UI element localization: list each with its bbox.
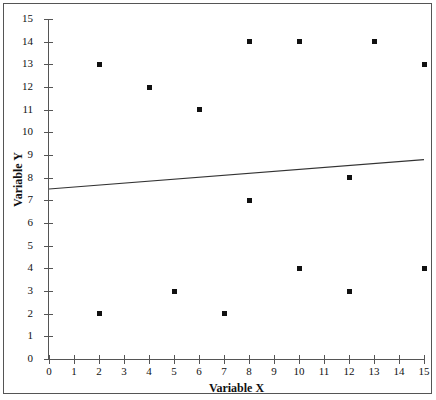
y-axis-label: Variable Y — [11, 130, 26, 230]
x-axis-line — [49, 359, 425, 360]
x-tick-label: 14 — [388, 366, 410, 377]
x-tick — [424, 355, 425, 364]
y-tick-label: 0 — [11, 353, 33, 364]
y-tick-label: 12 — [11, 81, 33, 92]
y-tick-label: 2 — [11, 308, 33, 319]
scatter-point — [297, 266, 302, 271]
x-tick-label: 11 — [313, 366, 335, 377]
x-tick-label: 6 — [188, 366, 210, 377]
scatter-point — [297, 39, 302, 44]
y-tick-label: 11 — [11, 104, 33, 115]
scatter-point — [172, 289, 177, 294]
scatter-point — [347, 289, 352, 294]
x-tick-label: 15 — [413, 366, 435, 377]
x-tick-label: 1 — [63, 366, 85, 377]
trend-line — [49, 19, 424, 359]
scatter-point — [422, 62, 427, 67]
x-tick-label: 10 — [288, 366, 310, 377]
y-tick-label: 14 — [11, 36, 33, 47]
scatter-point — [247, 198, 252, 203]
x-tick-label: 0 — [38, 366, 60, 377]
x-tick-label: 13 — [363, 366, 385, 377]
x-tick-label: 3 — [113, 366, 135, 377]
x-tick-label: 9 — [263, 366, 285, 377]
plot-area — [49, 19, 424, 359]
scatter-point — [222, 311, 227, 316]
scatter-point — [422, 266, 427, 271]
y-tick-label: 15 — [11, 13, 33, 24]
x-tick-label: 12 — [338, 366, 360, 377]
scatter-point — [197, 107, 202, 112]
x-tick-label: 2 — [88, 366, 110, 377]
figure-frame: 0123456789101112131415 01234567891011121… — [3, 3, 432, 394]
y-tick-label: 13 — [11, 58, 33, 69]
y-tick-label: 3 — [11, 285, 33, 296]
y-tick-label: 5 — [11, 240, 33, 251]
x-tick-label: 5 — [163, 366, 185, 377]
scatter-point — [372, 39, 377, 44]
scatter-point — [347, 175, 352, 180]
x-tick-label: 4 — [138, 366, 160, 377]
scatter-point — [247, 39, 252, 44]
x-tick-label: 8 — [238, 366, 260, 377]
scatter-point — [97, 311, 102, 316]
y-tick-label: 4 — [11, 262, 33, 273]
chart-page: 0123456789101112131415 01234567891011121… — [0, 0, 436, 400]
x-tick-label: 7 — [213, 366, 235, 377]
scatter-point — [147, 85, 152, 90]
x-axis-label: Variable X — [49, 381, 424, 396]
scatter-point — [97, 62, 102, 67]
y-tick-label: 1 — [11, 330, 33, 341]
